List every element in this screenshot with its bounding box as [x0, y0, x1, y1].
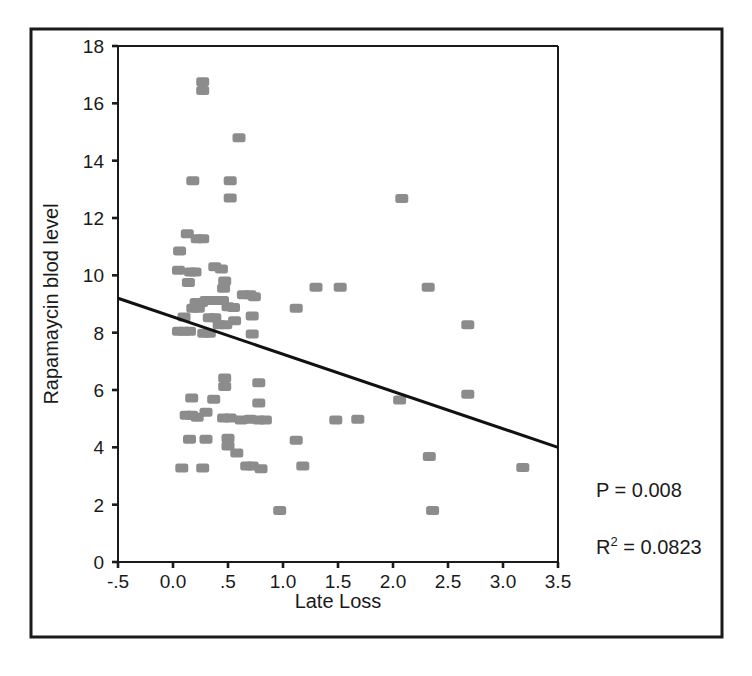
- data-point: [172, 266, 185, 275]
- data-point: [296, 461, 309, 470]
- data-point: [334, 283, 347, 292]
- data-point: [422, 283, 435, 292]
- data-point: [395, 194, 408, 203]
- x-axis-ticks: -.50.0.51.01.52.02.53.03.5: [107, 562, 571, 592]
- x-tick-label: 2.5: [435, 571, 461, 592]
- r-squared-annotation: R2 = 0.0823: [596, 534, 702, 558]
- data-point: [227, 303, 240, 312]
- data-point: [224, 176, 237, 185]
- x-tick-label: 3.0: [490, 571, 516, 592]
- x-tick-label: .5: [220, 571, 236, 592]
- data-point: [182, 278, 195, 287]
- x-tick-label: -.5: [107, 571, 129, 592]
- data-point: [329, 416, 342, 425]
- data-point: [173, 246, 186, 255]
- r-squared-value: = 0.0823: [618, 536, 702, 558]
- data-point: [186, 176, 199, 185]
- data-point: [224, 193, 237, 202]
- x-tick-label: 1.0: [270, 571, 296, 592]
- x-axis-title: Late Loss: [295, 590, 382, 612]
- data-point: [183, 327, 196, 336]
- data-point: [290, 436, 303, 445]
- y-tick-label: 6: [93, 380, 104, 401]
- data-point: [222, 434, 235, 443]
- data-point: [273, 506, 286, 515]
- data-point: [393, 396, 406, 405]
- data-point: [230, 449, 243, 458]
- r-squared-exponent: 2: [610, 534, 617, 549]
- data-point: [248, 292, 261, 301]
- x-tick-label: 1.5: [325, 571, 351, 592]
- data-point: [252, 398, 265, 407]
- y-axis-ticks: 024681012141618: [83, 36, 118, 573]
- y-axis-title: Rapamaycin blod level: [40, 203, 62, 404]
- y-tick-label: 12: [83, 208, 104, 229]
- data-point: [183, 435, 196, 444]
- data-point: [218, 373, 231, 382]
- x-tick-label: 2.0: [380, 571, 406, 592]
- data-point: [196, 463, 209, 472]
- data-point: [192, 304, 205, 313]
- data-point: [200, 435, 213, 444]
- scatter-chart: 024681012141618 -.50.0.51.01.52.02.53.03…: [0, 0, 752, 676]
- data-point: [255, 464, 268, 473]
- r-squared-prefix: R: [596, 536, 610, 558]
- data-point: [461, 320, 474, 329]
- data-point: [175, 463, 188, 472]
- plot-axes: [118, 46, 558, 562]
- data-point: [196, 234, 209, 243]
- data-point: [200, 408, 213, 417]
- y-tick-label: 14: [83, 151, 105, 172]
- data-point: [461, 390, 474, 399]
- data-point: [259, 416, 272, 425]
- data-point: [217, 284, 230, 293]
- data-point: [185, 394, 198, 403]
- data-point: [426, 506, 439, 515]
- data-point: [215, 265, 228, 274]
- data-point: [218, 382, 231, 391]
- data-point: [233, 133, 246, 142]
- y-tick-label: 2: [93, 495, 104, 516]
- data-point: [351, 415, 364, 424]
- data-point: [516, 463, 529, 472]
- figure-container: 024681012141618 -.50.0.51.01.52.02.53.03…: [0, 0, 752, 676]
- y-tick-label: 16: [83, 93, 104, 114]
- data-point: [252, 378, 265, 387]
- data-point: [310, 283, 323, 292]
- data-point: [246, 330, 259, 339]
- linear-fit-line: [118, 298, 558, 447]
- data-point: [189, 267, 202, 276]
- x-tick-label: 0.0: [160, 571, 186, 592]
- data-point: [196, 77, 209, 86]
- y-tick-label: 10: [83, 265, 104, 286]
- p-value-annotation: P = 0.008: [596, 479, 682, 501]
- y-tick-label: 4: [93, 437, 104, 458]
- y-tick-label: 18: [83, 36, 104, 57]
- data-points-layer: [172, 77, 529, 515]
- data-point: [290, 304, 303, 313]
- y-tick-label: 0: [93, 552, 104, 573]
- data-point: [228, 316, 241, 325]
- data-point: [246, 312, 259, 321]
- x-tick-label: 3.5: [545, 571, 571, 592]
- y-tick-label: 8: [93, 323, 104, 344]
- data-point: [196, 86, 209, 95]
- data-point: [423, 452, 436, 461]
- data-point: [207, 395, 220, 404]
